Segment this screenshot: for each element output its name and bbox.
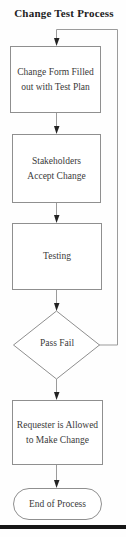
arrowhead-icon <box>54 215 60 223</box>
node-testing: Testing <box>12 223 102 290</box>
node-requester-label: Requester is Allowed to Make Change <box>16 418 100 448</box>
node-pass-fail-label: Pass Fail <box>14 338 100 348</box>
arrowhead-icon <box>54 392 60 400</box>
arrowhead-icon <box>54 38 60 46</box>
arrowhead-icon <box>54 303 60 311</box>
arrowhead-icon <box>54 480 60 488</box>
arrowhead-icon <box>54 126 60 134</box>
node-requester: Requester is Allowed to Make Change <box>12 400 103 465</box>
node-end-of-process-label: End of Process <box>29 497 86 512</box>
node-testing-label: Testing <box>43 249 71 264</box>
node-change-form: Change Form Filled out with Test Plan <box>10 46 101 113</box>
page-edge-bar <box>0 525 126 529</box>
node-change-form-label: Change Form Filled out with Test Plan <box>12 65 100 95</box>
node-stakeholders: Stakeholders Accept Change <box>12 134 101 203</box>
node-stakeholders-label: Stakeholders Accept Change <box>21 154 93 184</box>
flowchart-canvas: Change Test Process Change Form Filled o… <box>0 0 126 537</box>
node-end-of-process: End of Process <box>13 488 102 520</box>
